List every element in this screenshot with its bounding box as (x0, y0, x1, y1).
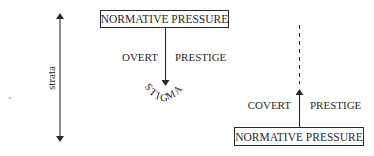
covert-label: COVERT (248, 99, 292, 111)
covert-overt-prestige-diagram: strata NORMATIVE PRESSURE OVERT PRESTIGE… (0, 0, 374, 156)
scan-speck (9, 97, 11, 99)
strata-axis: strata (45, 16, 60, 139)
top-prestige-label: PRESTIGE (175, 51, 227, 63)
stigma-arc: S T I G M A (143, 81, 185, 103)
bottom-prestige-label: PRESTIGE (310, 99, 362, 111)
overt-label: OVERT (122, 51, 158, 63)
bottom-box-label: NORMATIVE PRESSURE (235, 131, 362, 143)
bottom-normative-pressure-box: NORMATIVE PRESSURE (235, 128, 364, 146)
top-box-label: NORMATIVE PRESSURE (101, 13, 228, 25)
strata-label: strata (45, 66, 57, 90)
top-normative-pressure-box: NORMATIVE PRESSURE (101, 11, 229, 28)
